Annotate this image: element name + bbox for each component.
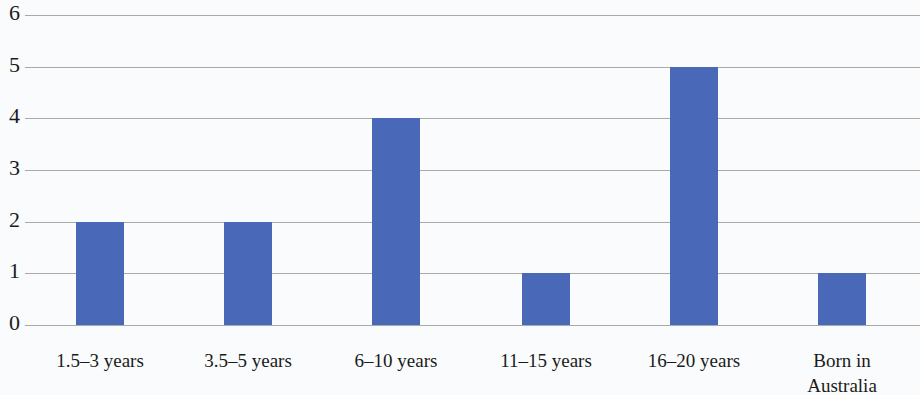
y-axis-tick-2: 2 [0, 209, 20, 231]
y-axis-tick-4: 4 [0, 105, 20, 127]
gridline-3 [25, 170, 920, 171]
y-axis-tick-0: 0 [0, 312, 20, 334]
bar[interactable] [76, 222, 124, 325]
gridline-2 [25, 222, 920, 223]
gridline-1 [25, 273, 920, 274]
gridline-5 [25, 67, 920, 68]
x-axis-label: 6–10 years [311, 348, 481, 373]
x-axis-label: 11–15 years [461, 348, 631, 373]
y-axis-tick-6: 6 [0, 2, 20, 24]
x-axis-label: Born in Australia [757, 348, 920, 395]
y-axis-tick-1: 1 [0, 260, 20, 282]
bar[interactable] [670, 67, 718, 325]
gridline-6 [25, 15, 920, 16]
gridline-0 [25, 325, 920, 326]
x-axis-label: 3.5–5 years [163, 348, 333, 373]
x-axis-label: 1.5–3 years [15, 348, 185, 373]
x-axis-label: 16–20 years [609, 348, 779, 373]
gridline-4 [25, 118, 920, 119]
plot-area: 0123456 [0, 0, 920, 340]
bar[interactable] [818, 273, 866, 325]
bar[interactable] [372, 118, 420, 325]
y-axis-tick-5: 5 [0, 54, 20, 76]
y-axis-tick-3: 3 [0, 157, 20, 179]
x-axis-category-labels: 1.5–3 years3.5–5 years6–10 years11–15 ye… [0, 340, 920, 395]
bar[interactable] [522, 273, 570, 325]
bar[interactable] [224, 222, 272, 325]
bar-chart: 0123456 1.5–3 years3.5–5 years6–10 years… [0, 0, 920, 395]
